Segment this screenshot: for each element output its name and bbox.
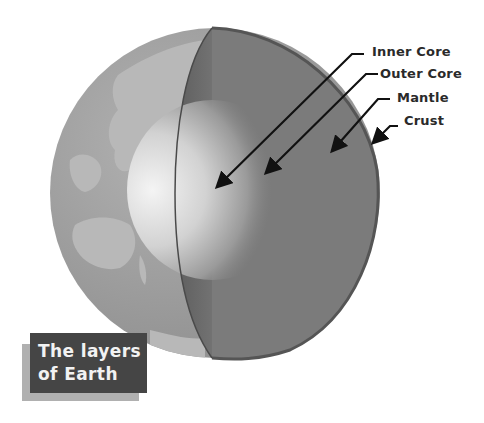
label-crust: Crust bbox=[404, 113, 444, 128]
label-inner-core: Inner Core bbox=[372, 44, 451, 59]
title-line-1: The layers bbox=[38, 340, 147, 363]
outer-core bbox=[127, 100, 297, 280]
label-outer-core: Outer Core bbox=[380, 66, 462, 81]
label-mantle: Mantle bbox=[397, 90, 449, 105]
title-line-2: of Earth bbox=[38, 363, 147, 386]
arrow-crust bbox=[374, 126, 398, 142]
title-box: The layers of Earth bbox=[30, 333, 147, 393]
